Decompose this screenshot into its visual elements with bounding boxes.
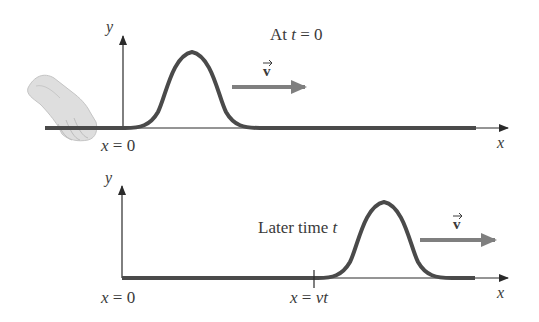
bottom-x-axis-label: x [496,284,504,301]
top-y-axis-label: y [104,18,114,36]
bottom-vt-label: x = vt [289,288,329,307]
hand-icon [28,75,97,141]
bottom-origin-label: x = 0 [100,288,135,307]
top-rope-pulse [45,52,476,128]
bottom-panel: y x v Later time t x = 0 x = vt [100,169,508,307]
top-caption: At t = 0 [270,25,323,44]
top-origin-label: x = 0 [100,136,135,155]
wave-pulse-diagram: y x v At t = 0 x = 0 y x v [0,0,539,322]
bottom-y-axis-label: y [103,169,113,187]
top-panel: y x v At t = 0 x = 0 [28,18,508,155]
top-x-axis-label: x [496,134,504,151]
bottom-caption: Later time t [258,218,339,237]
